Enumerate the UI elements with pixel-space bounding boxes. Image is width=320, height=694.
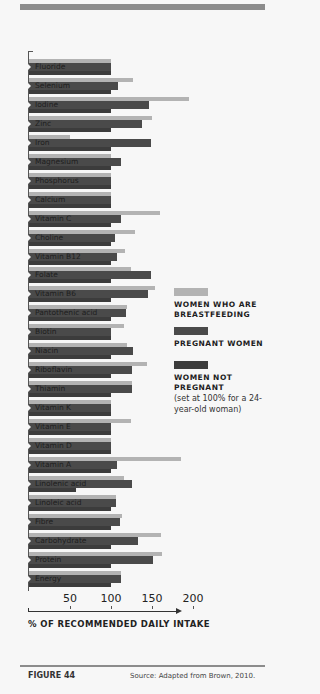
row-notch [27,271,31,279]
bar-not-pregnant [29,90,111,94]
x-axis-arrow-line [28,611,178,612]
legend-label: WOMEN NOT PREGNANT [174,373,274,393]
row-notch [27,120,31,128]
row-notch [27,423,31,431]
x-tick-mark [152,606,153,609]
row-notch [27,234,31,242]
row-notch [27,328,31,336]
bar-not-pregnant [29,583,111,587]
bar-not-pregnant [29,298,111,302]
bar-not-pregnant [29,261,111,265]
category-label: Magnesium [35,157,78,166]
legend-swatch-pregnant [174,327,208,335]
category-label: Zinc [35,119,51,128]
category-axis-cap [28,51,33,52]
bar-not-pregnant [29,450,111,454]
bar-not-pregnant [29,185,111,189]
row-notch [27,309,31,317]
legend-item-not-pregnant: WOMEN NOT PREGNANT (set at 100% for a 24… [174,361,274,415]
category-label: Fluoride [35,62,65,71]
bar-not-pregnant [29,488,76,492]
category-label: Vitamin A [35,460,71,469]
bar-not-pregnant [29,279,111,283]
x-tick-mark [111,606,112,609]
row-notch [27,177,31,185]
bar-not-pregnant [29,242,111,246]
category-label: Iron [35,138,49,147]
row-notch [27,253,31,261]
legend-label: WOMEN WHO ARE BREASTFEEDING [174,300,274,320]
category-label: Selenium [35,81,70,90]
category-label: Energy [35,574,61,583]
row-notch [27,158,31,166]
category-label: Carbohydrate [35,536,86,545]
legend-item-breastfeeding: WOMEN WHO ARE BREASTFEEDING [174,288,274,320]
x-tick-label: 50 [63,592,77,605]
row-notch [27,518,31,526]
legend: WOMEN WHO ARE BREASTFEEDING PREGNANT WOM… [174,288,274,422]
x-axis-title: % OF RECOMMENDED DAILY INTAKE [28,619,210,629]
row-notch [27,385,31,393]
row-notch [27,556,31,564]
category-label: Vitamin K [35,403,71,412]
bar-not-pregnant [29,412,111,416]
category-label: Thiamin [35,384,65,393]
x-tick-label: 150 [142,592,163,605]
bar-not-pregnant [29,336,111,340]
bar-not-pregnant [29,223,111,227]
category-label: Vitamin C [35,214,71,223]
category-label: Calcium [35,195,65,204]
bar-not-pregnant [29,393,111,397]
x-tick-mark [70,606,71,609]
bar-not-pregnant [29,431,111,435]
bar-not-pregnant [29,355,111,359]
row-notch [27,575,31,583]
row-notch [27,101,31,109]
row-notch [27,461,31,469]
category-label: Phosphorus [35,176,79,185]
legend-label: PREGNANT WOMEN [174,339,274,349]
category-label: Choline [35,233,63,242]
bar-not-pregnant [29,374,111,378]
bar-not-pregnant [29,109,111,113]
x-tick-label: 200 [183,592,204,605]
bar-not-pregnant [29,564,111,568]
bar-not-pregnant [29,166,111,170]
bar-not-pregnant [29,128,111,132]
legend-swatch-breastfeeding [174,288,208,296]
category-label: Protein [35,555,61,564]
category-label: Linoleic acid [35,498,81,507]
category-label: Niacin [35,346,58,355]
bar-not-pregnant [29,469,111,473]
category-label: Fibre [35,517,53,526]
row-notch [27,537,31,545]
row-notch [27,442,31,450]
bar-not-pregnant [29,526,111,530]
bar-not-pregnant [29,147,111,151]
row-notch [27,215,31,223]
row-notch [27,63,31,71]
row-notch [27,347,31,355]
row-notch [27,480,31,488]
bar-not-pregnant [29,545,111,549]
category-label: Pantothenic acid [35,308,97,317]
bar-not-pregnant [29,204,111,208]
arrow-right-icon [176,608,182,614]
category-label: Vitamin E [35,422,71,431]
x-tick-mark [193,606,194,609]
row-notch [27,290,31,298]
row-notch [27,196,31,204]
bar-not-pregnant [29,71,111,75]
source-citation: Source: Adapted from Brown, 2010. [130,672,255,680]
category-label: Vitamin B12 [35,252,81,261]
legend-swatch-not-pregnant [174,361,208,369]
bar-not-pregnant [29,507,111,511]
category-label: Riboflavin [35,365,72,374]
row-notch [27,499,31,507]
category-label: Vitamin D [35,441,72,450]
bar-not-pregnant [29,317,111,321]
row-notch [27,139,31,147]
row-notch [27,82,31,90]
category-label: Linolenic acid [35,479,86,488]
category-label: Vitamin B6 [35,289,76,298]
